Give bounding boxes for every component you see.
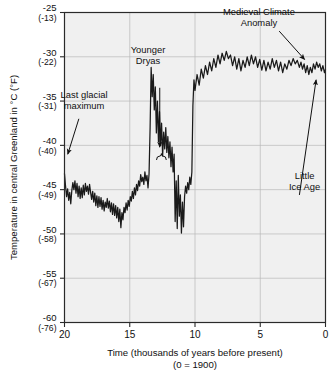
y-tick-label-celsius: -35 — [43, 91, 57, 102]
annotation-label: Last glacial — [61, 89, 108, 100]
x-axis-note-text: (0 = 1900) — [173, 359, 217, 370]
y-tick-label-fahrenheit: (-49) — [38, 190, 56, 200]
x-tick-label: 10 — [189, 329, 201, 340]
y-tick-label-fahrenheit: (-13) — [38, 13, 56, 23]
annotation-label: Medieval Climate — [223, 6, 295, 17]
annotation-label: Anomaly — [241, 17, 278, 28]
y-tick-label-fahrenheit: (-31) — [38, 101, 56, 111]
annotation-label: Ice Age — [289, 181, 320, 192]
y-tick-label-fahrenheit: (-22) — [38, 57, 56, 67]
y-tick-label-celsius: -60 — [43, 312, 57, 323]
y-tick-label-fahrenheit: (-58) — [38, 234, 56, 244]
y-tick-label-fahrenheit: (-40) — [38, 146, 56, 156]
x-axis-title-text: Time (thousands of years before present) — [107, 347, 283, 358]
y-tick-label-celsius: -45 — [43, 179, 57, 190]
annotation-label: maximum — [64, 100, 105, 111]
x-tick-label: 5 — [257, 329, 263, 340]
x-tick-label: 20 — [59, 329, 71, 340]
x-tick-label: 15 — [124, 329, 136, 340]
annotation-label: Little — [295, 170, 315, 181]
plot-group: -25(-13)-30(-22)-35(-31)-40(-40)-45(-49)… — [8, 2, 329, 369]
y-tick-label-celsius: -25 — [43, 2, 57, 13]
y-tick-label-fahrenheit: (-67) — [38, 278, 56, 288]
y-tick-label-fahrenheit: (-76) — [38, 323, 56, 333]
chart-svg: -25(-13)-30(-22)-35(-31)-40(-40)-45(-49)… — [0, 0, 336, 371]
climate-chart-figure: -25(-13)-30(-22)-35(-31)-40(-40)-45(-49)… — [0, 0, 336, 371]
y-tick-label-celsius: -55 — [43, 268, 57, 279]
x-tick-label: 0 — [323, 329, 329, 340]
annotation-label: Younger — [131, 44, 166, 55]
y-tick-label-celsius: -50 — [43, 224, 57, 235]
y-tick-label-celsius: -30 — [43, 47, 57, 58]
y-tick-label-celsius: -40 — [43, 135, 57, 146]
annotation-label: Dryas — [136, 55, 161, 66]
y-axis-title-text: Temperature in central Greenland in °C (… — [8, 75, 19, 260]
